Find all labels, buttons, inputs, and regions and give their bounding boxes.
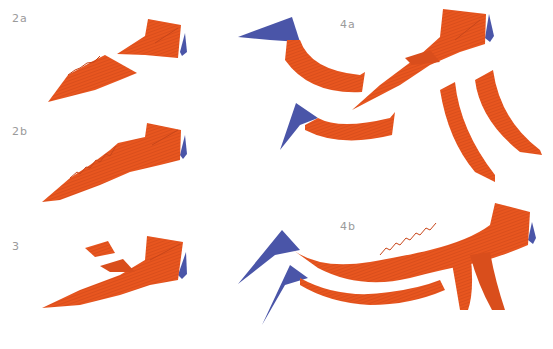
step-4a-body xyxy=(352,9,494,110)
step-2a-head-piece xyxy=(117,19,187,58)
step-2a-body-piece xyxy=(48,55,137,102)
step-4b-assembled xyxy=(238,203,536,325)
step-4a-upper-tail xyxy=(238,17,365,92)
step-3-with-wing xyxy=(42,236,187,308)
step-2b-assembled xyxy=(42,123,187,202)
step-4a-lower-tail xyxy=(280,103,395,150)
origami-illustration xyxy=(0,0,553,349)
step-4a-leg-right xyxy=(475,70,542,155)
